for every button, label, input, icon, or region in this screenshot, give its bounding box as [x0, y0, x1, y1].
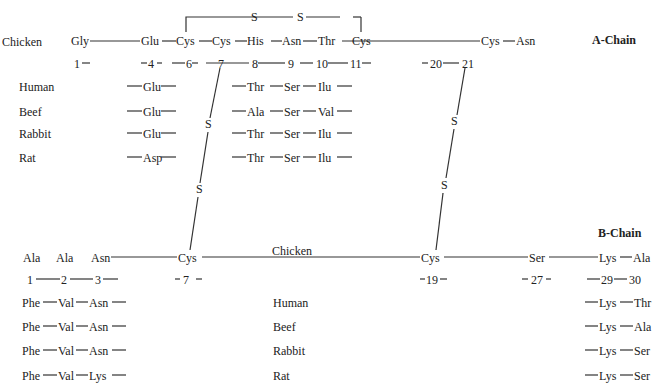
a-variant-residue: Thr: [247, 81, 264, 93]
a-variant-residue: Thr: [247, 152, 264, 164]
a-residue: His: [247, 35, 264, 47]
a-variant-residue: Glu: [143, 81, 161, 93]
b-variant-residue: Lys: [599, 370, 616, 382]
interchain-sulfur: S: [441, 179, 448, 191]
b-position: 19: [426, 274, 438, 286]
a-variant-residue: Val: [318, 106, 334, 118]
b-position: 1: [27, 274, 33, 286]
b-variant-residue: Phe: [22, 321, 40, 333]
b-variant-residue: Asn: [89, 297, 108, 309]
a-residue: Cys: [352, 35, 371, 47]
a-variant-residue: Asp: [143, 152, 162, 164]
a-variant-residue: Thr: [247, 128, 264, 140]
a-variant-residue: Ala: [247, 106, 264, 118]
a-position: 7: [218, 58, 224, 70]
b-chain-title: B-Chain: [598, 227, 641, 239]
b-variant-residue: Ala: [634, 321, 651, 333]
b-position: 27: [531, 274, 543, 286]
b-variant-residue: Ser: [634, 345, 650, 357]
a-variant-residue: Ser: [284, 128, 300, 140]
b-variant-residue: Val: [58, 345, 74, 357]
b-variant-residue: Phe: [22, 345, 40, 357]
a-position: 1: [74, 58, 80, 70]
a-residue: Glu: [141, 35, 159, 47]
b-chain-species-label: Chicken: [272, 245, 312, 257]
b-variant-residue: Val: [58, 297, 74, 309]
a-position: 20: [430, 58, 442, 70]
a-variant-species: Rat: [19, 152, 36, 164]
a-residue: Cys: [481, 35, 500, 47]
a-residue: Cys: [176, 35, 195, 47]
b-variant-species: Human: [273, 297, 308, 309]
b-variant-species: Beef: [273, 321, 296, 333]
b-position: 7: [183, 274, 189, 286]
b-residue: Asn: [91, 252, 110, 264]
a-position: 8: [252, 58, 258, 70]
a-chain-species-label: Chicken: [2, 36, 42, 48]
b-residue: Ala: [56, 252, 73, 264]
a-variant-residue: Ser: [284, 81, 300, 93]
interchain-sulfur: S: [451, 115, 458, 127]
b-variant-residue: Phe: [22, 370, 40, 382]
a-variant-residue: Glu: [143, 106, 161, 118]
a-position: 9: [288, 58, 294, 70]
b-residue: Lys: [599, 252, 616, 264]
disulfide-sulfur: S: [297, 11, 304, 23]
a-variant-residue: Glu: [143, 128, 161, 140]
b-variant-residue: Phe: [22, 297, 40, 309]
interchain-sulfur: S: [205, 118, 212, 130]
b-variant-species: Rabbit: [273, 345, 305, 357]
b-position: 3: [95, 274, 101, 286]
a-variant-residue: Ser: [284, 106, 300, 118]
b-variant-residue: Lys: [599, 345, 616, 357]
b-variant-residue: Lys: [599, 321, 616, 333]
b-position: 29: [601, 274, 613, 286]
b-residue: Cys: [178, 252, 197, 264]
a-variant-residue: Ser: [284, 152, 300, 164]
b-variant-species: Rat: [273, 370, 290, 382]
a-position: 4: [148, 58, 154, 70]
a-variant-residue: Ilu: [318, 81, 331, 93]
a-variant-residue: Ilu: [318, 128, 331, 140]
a-variant-residue: Ilu: [318, 152, 331, 164]
b-residue: Cys: [421, 252, 440, 264]
b-position: 2: [61, 274, 67, 286]
a-position: 10: [316, 58, 328, 70]
b-residue: Ala: [633, 252, 650, 264]
a-position: 21: [462, 58, 474, 70]
b-variant-residue: Thr: [634, 297, 651, 309]
a-residue: Asn: [282, 35, 301, 47]
a-residue: Asn: [516, 35, 535, 47]
a-residue: Cys: [212, 35, 231, 47]
interchain-sulfur: S: [196, 183, 203, 195]
b-variant-residue: Asn: [89, 321, 108, 333]
b-variant-residue: Lys: [599, 297, 616, 309]
b-position: 30: [629, 274, 641, 286]
b-variant-residue: Val: [58, 370, 74, 382]
a-chain-title: A-Chain: [592, 34, 636, 46]
a-variant-species: Beef: [19, 106, 42, 118]
b-residue: Ser: [529, 252, 545, 264]
b-variant-residue: Ser: [634, 370, 650, 382]
a-variant-species: Human: [19, 81, 54, 93]
b-variant-residue: Asn: [89, 345, 108, 357]
a-residue: Thr: [318, 35, 335, 47]
a-residue: Gly: [71, 35, 89, 47]
a-variant-species: Rabbit: [19, 128, 51, 140]
disulfide-sulfur: S: [251, 11, 258, 23]
b-variant-residue: Val: [58, 321, 74, 333]
b-variant-residue: Lys: [89, 370, 106, 382]
a-position: 6: [186, 58, 192, 70]
b-residue: Ala: [23, 252, 40, 264]
a-position: 11: [350, 58, 362, 70]
